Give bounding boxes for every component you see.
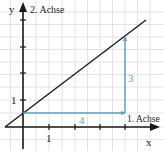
y-axis-name: 2. Achse [30, 4, 65, 15]
x-tick-label: 1 [46, 132, 52, 144]
x-axis-arrow-icon [150, 123, 160, 131]
horizontal-run-label: 4 [79, 114, 85, 126]
grid [0, 0, 164, 151]
x-label: x [146, 136, 152, 148]
vertical-arrow-icon [123, 35, 127, 41]
y-axis-arrow-icon [19, 2, 27, 12]
x-axis-name: 1. Achse [127, 114, 160, 124]
vertical-rise-label: 3 [128, 72, 134, 84]
y-tick-label: 1 [11, 94, 17, 106]
y-label: y [9, 3, 15, 15]
coordinate-diagram: y 2. Achse 1 1 1. Achse x 4 3 [0, 0, 164, 151]
